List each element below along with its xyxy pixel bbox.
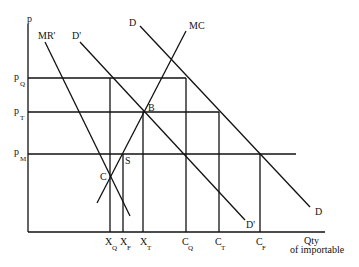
svg-text:T: T <box>20 114 25 122</box>
label-cf: C F <box>256 236 266 252</box>
label-xq: X Q <box>105 236 117 252</box>
label-mr-prime: MR' <box>38 30 56 41</box>
label-xf: X F <box>120 236 131 252</box>
svg-text:T: T <box>147 244 152 252</box>
label-d-prime-top: D' <box>72 30 81 41</box>
label-point-s: S <box>125 155 131 166</box>
label-d-top: D <box>129 17 136 28</box>
label-xt: X T <box>140 236 152 252</box>
svg-text:F: F <box>127 244 131 252</box>
svg-text:M: M <box>20 155 27 163</box>
svg-text:T: T <box>221 244 226 252</box>
svg-text:p: p <box>14 105 19 116</box>
label-d-bottom: D <box>315 206 322 217</box>
svg-text:Q: Q <box>188 244 193 252</box>
d-curve <box>140 26 310 207</box>
label-d-prime-bottom: D' <box>246 219 255 230</box>
svg-text:F: F <box>262 244 266 252</box>
label-mc: MC <box>189 20 205 31</box>
label-pt: p T <box>14 105 25 122</box>
x-axis-label-line2: of importable <box>290 244 345 255</box>
svg-text:p: p <box>14 146 19 157</box>
label-point-b: B <box>148 102 155 113</box>
label-pm: p M <box>14 146 27 163</box>
y-axis-label: p <box>27 13 32 24</box>
label-ct: C T <box>215 236 226 252</box>
svg-text:p: p <box>14 71 19 82</box>
label-pq: p Q <box>14 71 25 88</box>
svg-text:Q: Q <box>20 80 25 88</box>
import-quota-diagram: p p Q p T p M MR' D' D MC D' D B C S X Q… <box>0 0 359 267</box>
svg-text:Q: Q <box>112 244 117 252</box>
label-cq: C Q <box>182 236 193 252</box>
mr-prime-curve <box>45 42 130 216</box>
label-point-c: C <box>100 171 107 182</box>
d-prime-curve <box>80 42 245 220</box>
